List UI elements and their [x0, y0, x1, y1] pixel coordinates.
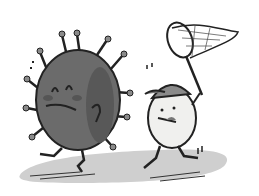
chaser-character	[144, 19, 238, 168]
cartoon-scene	[0, 0, 259, 196]
illustration	[0, 0, 259, 196]
virus-character	[23, 30, 133, 172]
